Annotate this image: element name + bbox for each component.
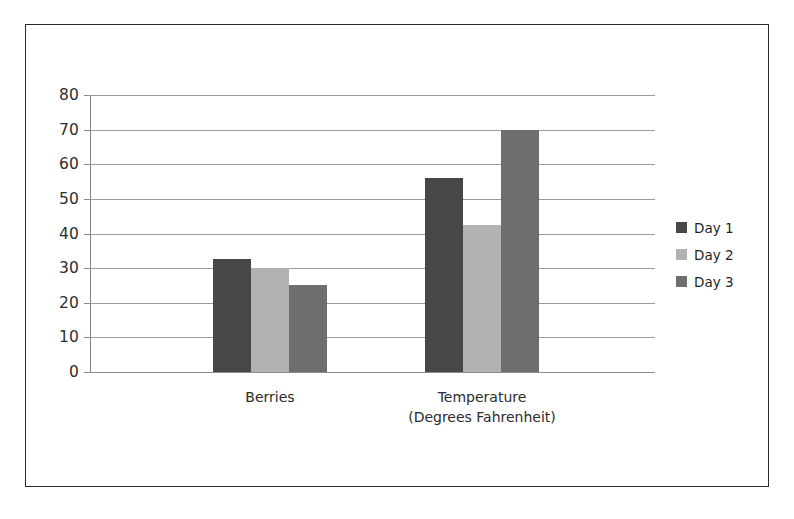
bar-day-1: [213, 259, 251, 372]
tick-mark: [84, 337, 90, 338]
y-axis-tick-label: 60: [59, 155, 79, 173]
gridline: [90, 199, 655, 200]
y-axis-tick-label: 10: [59, 328, 79, 346]
tick-mark: [84, 199, 90, 200]
x-axis-category-label: Temperature(Degrees Fahrenheit): [342, 388, 622, 428]
gridline: [90, 234, 655, 235]
legend-item-label: Day 2: [694, 247, 734, 263]
legend-item-day-1[interactable]: Day 1: [676, 214, 756, 241]
bar-day-2: [251, 268, 289, 372]
chart-page: 01020304050607080 BerriesTemperature(Deg…: [0, 0, 794, 519]
gridline: [90, 268, 655, 269]
gridline: [90, 372, 655, 373]
tick-mark: [84, 234, 90, 235]
gridline: [90, 95, 655, 96]
tick-mark: [84, 130, 90, 131]
tick-mark: [84, 164, 90, 165]
bar-day-3: [501, 130, 539, 372]
tick-mark: [84, 268, 90, 269]
legend-item-day-3[interactable]: Day 3: [676, 268, 756, 295]
y-axis-tick-label: 70: [59, 121, 79, 139]
category-label-line: Temperature: [342, 388, 622, 408]
legend-swatch-icon: [676, 222, 687, 233]
bar-day-2: [463, 225, 501, 372]
gridline: [90, 337, 655, 338]
legend-item-day-2[interactable]: Day 2: [676, 241, 756, 268]
y-axis-tick-label: 20: [59, 294, 79, 312]
bar-day-1: [425, 178, 463, 372]
legend-item-label: Day 1: [694, 220, 734, 236]
y-axis-tick-label: 40: [59, 225, 79, 243]
plot-area: 01020304050607080: [90, 95, 655, 372]
tick-mark: [84, 95, 90, 96]
gridline: [90, 303, 655, 304]
tick-mark: [84, 303, 90, 304]
legend-swatch-icon: [676, 249, 687, 260]
y-axis-tick-label: 50: [59, 190, 79, 208]
gridline: [90, 130, 655, 131]
legend-swatch-icon: [676, 276, 687, 287]
legend-item-label: Day 3: [694, 274, 734, 290]
chart-legend: Day 1Day 2Day 3: [676, 214, 756, 295]
tick-mark: [84, 372, 90, 373]
y-axis-tick-label: 80: [59, 86, 79, 104]
y-axis-tick-label: 0: [69, 363, 79, 381]
bar-day-3: [289, 285, 327, 372]
category-label-line: (Degrees Fahrenheit): [342, 408, 622, 428]
y-axis-tick-label: 30: [59, 259, 79, 277]
gridline: [90, 164, 655, 165]
